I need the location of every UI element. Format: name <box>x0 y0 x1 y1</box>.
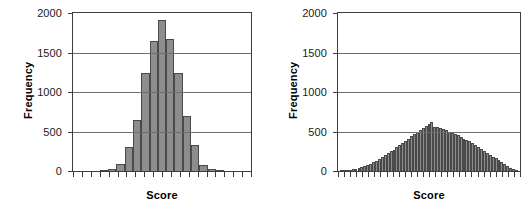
y-axis-tick <box>68 13 73 14</box>
plot-area-right <box>337 12 521 172</box>
y-axis-tick-label: 1500 <box>37 47 62 58</box>
y-axis-tick-label: 0 <box>321 166 327 177</box>
histogram-bar <box>158 20 166 171</box>
y-axis-tick-label: 0 <box>56 166 62 177</box>
histogram-bar <box>174 73 182 171</box>
x-axis-tick <box>153 172 154 177</box>
x-axis-tick <box>490 172 491 177</box>
x-axis-tick <box>82 172 83 177</box>
y-axis-tick <box>68 53 73 54</box>
y-axis-tick <box>333 132 338 133</box>
x-axis-tick <box>180 172 181 177</box>
x-axis-tick <box>441 172 442 177</box>
plot-area-left <box>72 12 252 172</box>
y-axis-tick-label: 1500 <box>302 47 327 58</box>
x-axis-tick <box>459 172 460 177</box>
histogram-bar <box>183 116 191 171</box>
histogram-bar <box>199 165 207 171</box>
x-axis-tick <box>387 172 388 177</box>
x-axis-tick <box>198 172 199 177</box>
y-axis-tick <box>68 92 73 93</box>
x-axis-tick <box>356 172 357 177</box>
x-axis-tick <box>514 172 515 177</box>
x-axis-tick <box>520 172 521 177</box>
x-axis-tick <box>484 172 485 177</box>
x-axis-tick <box>399 172 400 177</box>
chart-panel-left: 0500100015002000 Frequency Score <box>0 0 265 214</box>
x-axis-tick <box>224 172 225 177</box>
x-axis-tick <box>233 172 234 177</box>
histogram-bar <box>125 147 133 171</box>
x-axis-tick <box>118 172 119 177</box>
x-axis-tick <box>362 172 363 177</box>
histogram-bar <box>108 169 116 171</box>
y-axis-tick <box>333 13 338 14</box>
histogram-bar <box>116 164 124 171</box>
x-axis-tick <box>374 172 375 177</box>
y-axis-tick <box>333 92 338 93</box>
x-axis-tick <box>350 172 351 177</box>
x-axis-tick <box>478 172 479 177</box>
gridline <box>338 53 520 54</box>
y-axis-tick-label: 500 <box>308 126 327 137</box>
gridline <box>73 132 251 133</box>
x-axis-tick <box>417 172 418 177</box>
histogram-bar <box>141 73 149 171</box>
x-axis-tick <box>162 172 163 177</box>
histogram-bar <box>216 170 224 171</box>
x-axis-tick <box>453 172 454 177</box>
x-axis-tick <box>496 172 497 177</box>
x-axis-tick <box>126 172 127 177</box>
y-axis-tick <box>333 171 338 172</box>
y-axis-tick-label: 1000 <box>37 87 62 98</box>
y-axis-tick-label: 1000 <box>302 87 327 98</box>
x-axis-title-right: Score <box>337 189 521 201</box>
x-axis-tick <box>189 172 190 177</box>
histogram-bar <box>166 39 174 171</box>
x-axis-tick <box>251 172 252 177</box>
x-axis-tick <box>429 172 430 177</box>
x-axis-tick <box>393 172 394 177</box>
y-axis-title-left: Frequency <box>22 63 34 119</box>
y-axis-title-right: Frequency <box>287 63 299 119</box>
histogram-bar <box>208 169 216 171</box>
histogram-bar <box>191 145 199 171</box>
histogram-figure: 0500100015002000 Frequency Score 0500100… <box>0 0 530 214</box>
x-axis-tick <box>447 172 448 177</box>
y-axis-tick <box>68 132 73 133</box>
x-axis-tick <box>73 172 74 177</box>
x-axis-tick <box>100 172 101 177</box>
x-axis-tick <box>242 172 243 177</box>
x-axis-tick <box>405 172 406 177</box>
histogram-bar <box>150 41 158 171</box>
x-axis-tick <box>508 172 509 177</box>
x-axis-tick <box>338 172 339 177</box>
x-axis-tick <box>502 172 503 177</box>
x-axis-tick <box>109 172 110 177</box>
x-axis-tick <box>215 172 216 177</box>
y-axis-tick-label: 500 <box>43 126 62 137</box>
x-axis-tick <box>411 172 412 177</box>
x-axis-tick <box>171 172 172 177</box>
y-axis-tick-label: 2000 <box>37 8 62 19</box>
x-axis-tick <box>471 172 472 177</box>
x-axis-tick <box>368 172 369 177</box>
histogram-bar <box>133 120 141 171</box>
x-axis-tick <box>435 172 436 177</box>
histogram-bar <box>515 170 518 171</box>
gridline <box>338 92 520 93</box>
gridline <box>73 53 251 54</box>
gridline <box>73 92 251 93</box>
chart-panel-right: 0500100015002000 Frequency Score <box>265 0 530 214</box>
x-axis-tick <box>423 172 424 177</box>
x-axis-title-left: Score <box>72 189 252 201</box>
x-axis-tick <box>91 172 92 177</box>
y-axis-tick <box>333 53 338 54</box>
x-axis-tick <box>344 172 345 177</box>
x-axis-tick <box>144 172 145 177</box>
x-axis-tick <box>207 172 208 177</box>
x-axis-tick <box>380 172 381 177</box>
y-axis-tick <box>68 171 73 172</box>
gridline <box>338 132 520 133</box>
x-axis-tick <box>135 172 136 177</box>
